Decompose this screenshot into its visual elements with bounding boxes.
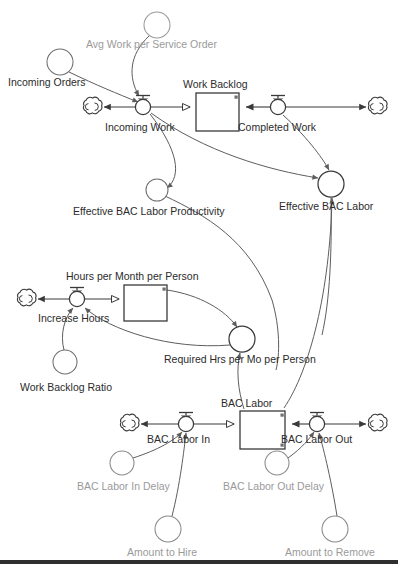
label-bac-labor: BAC Labor xyxy=(221,397,273,409)
stock-work-backlog[interactable] xyxy=(196,93,239,131)
label-effective-bac-labor-productivity: Effective BAC Labor Productivity xyxy=(73,205,225,217)
link-hours-per-month-to-required-hrs xyxy=(167,290,237,327)
link-amount-to-remove-to-bac-labor-out xyxy=(319,433,337,516)
valve-completed-work[interactable] xyxy=(270,96,285,115)
label-effective-bac-labor: Effective BAC Labor xyxy=(279,200,374,212)
diagram-canvas: Avg Work per Service Order Incoming Orde… xyxy=(0,0,398,564)
aux-avg-work-per-service-order[interactable] xyxy=(144,12,170,38)
aux-effective-bac-labor[interactable] xyxy=(318,171,344,197)
cloud-icon-completed-sink xyxy=(368,97,387,114)
label-amount-to-remove: Amount to Remove xyxy=(285,546,375,558)
bottom-divider xyxy=(0,560,398,564)
aux-incoming-orders[interactable] xyxy=(47,49,73,75)
cloud-icon-bac-labor-in-source xyxy=(120,414,139,431)
stock-flow-diagram: Avg Work per Service Order Incoming Orde… xyxy=(0,0,398,564)
link-amount-to-hire-to-bac-labor-in xyxy=(172,433,186,516)
aux-bac-labor-in-delay[interactable] xyxy=(110,451,134,475)
label-completed-work: Completed Work xyxy=(238,121,317,133)
cloud-icon-bac-labor-out-sink xyxy=(368,414,387,431)
label-bac-labor-in: BAC Labor In xyxy=(147,433,210,445)
label-amount-to-hire: Amount to Hire xyxy=(127,546,197,558)
label-bac-labor-out: BAC Labor Out xyxy=(281,433,352,445)
label-incoming-orders: Incoming Orders xyxy=(8,76,86,88)
valve-bac-labor-out[interactable] xyxy=(309,413,324,432)
valve-incoming-work[interactable] xyxy=(135,96,150,115)
label-incoming-work: Incoming Work xyxy=(105,121,176,133)
valve-bac-labor-in[interactable] xyxy=(178,413,193,432)
aux-amount-to-hire[interactable] xyxy=(155,516,181,542)
label-work-backlog-ratio: Work Backlog Ratio xyxy=(20,381,112,393)
link-bac-labor-to-effective-bac-labor xyxy=(284,198,332,408)
label-bac-labor-in-delay: BAC Labor In Delay xyxy=(77,480,171,492)
label-required-hrs-per-mo-per-person: Required Hrs per Mo per Person xyxy=(164,353,316,365)
label-increase-hours: Increase Hours xyxy=(38,312,109,324)
stock-hours-per-month-per-person[interactable] xyxy=(124,285,167,321)
label-work-backlog: Work Backlog xyxy=(183,78,248,90)
aux-effective-bac-labor-productivity[interactable] xyxy=(146,179,168,201)
valve-increase-hours[interactable] xyxy=(69,288,84,307)
aux-required-hrs-per-mo-per-person[interactable] xyxy=(229,326,255,352)
stock-bac-labor[interactable] xyxy=(240,411,285,449)
label-avg-work-per-service-order: Avg Work per Service Order xyxy=(86,38,217,50)
cloud-icon-incoming-source xyxy=(83,97,102,114)
label-bac-labor-out-delay: BAC Labor Out Delay xyxy=(223,480,325,492)
label-hours-per-month-per-person: Hours per Month per Person xyxy=(66,270,199,282)
aux-bac-labor-out-delay[interactable] xyxy=(265,451,289,475)
aux-amount-to-remove[interactable] xyxy=(322,516,348,542)
aux-work-backlog-ratio[interactable] xyxy=(53,350,77,374)
cloud-icon-increase-hours-source xyxy=(17,289,36,306)
